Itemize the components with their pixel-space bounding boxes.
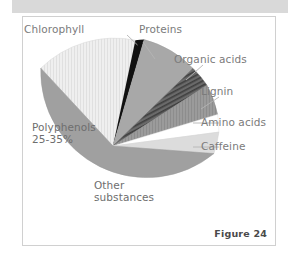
figure-box: Chlorophyll Proteins Organic acids Ligni…	[22, 16, 276, 246]
figure-caption: Figure 24	[214, 228, 267, 239]
pie-label-lignin: Lignin	[201, 85, 233, 97]
pie-label-other-substances-line1: Other	[94, 179, 124, 191]
pie-label-other-substances-line2: substances	[94, 191, 154, 203]
pie-label-amino-acids: Amino acids	[201, 116, 266, 128]
top-decorative-band	[12, 0, 288, 13]
pie-label-organic-acids: Organic acids	[174, 53, 247, 65]
pie-label-caffeine: Caffeine	[201, 140, 245, 152]
pie-label-polyphenols-value: 25-35%	[32, 133, 73, 145]
pie-chart: Chlorophyll Proteins Organic acids Ligni…	[23, 17, 275, 245]
pie-label-polyphenols-name: Polyphenols	[32, 121, 96, 133]
figure-root: Chlorophyll Proteins Organic acids Ligni…	[0, 0, 288, 257]
pie-label-proteins: Proteins	[139, 23, 182, 35]
pie-label-chlorophyll: Chlorophyll	[24, 23, 84, 35]
